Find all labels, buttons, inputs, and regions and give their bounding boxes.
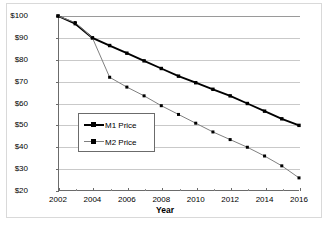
chart-legend: M1 Price M2 Price [78,113,155,152]
data-point-marker [280,164,283,167]
data-point-marker [229,138,232,141]
data-point-marker [125,51,128,54]
data-point-marker [297,124,300,127]
data-point-marker [246,102,249,105]
data-point-marker [125,86,128,89]
data-point-marker [211,88,214,91]
data-point-marker [280,117,283,120]
data-point-marker [211,130,214,133]
data-point-marker [57,15,60,18]
data-point-marker [108,76,111,79]
legend-item-m2-price: M2 Price [79,134,156,150]
series-line-m1-price [58,16,299,125]
legend-marker-m2-price [84,137,104,147]
data-point-marker [160,104,163,107]
data-point-marker [263,155,266,158]
data-point-marker [108,44,111,47]
data-point-marker [194,81,197,84]
data-point-marker [228,94,231,97]
data-point-marker [298,176,301,179]
data-point-marker [142,59,145,62]
data-point-marker [246,146,249,149]
line-chart: Price Year $20$30$40$50$60$70$80$90$100 … [0,0,330,229]
legend-label-m2-price: M2 Price [105,138,137,147]
legend-label-m1-price: M1 Price [105,121,137,130]
data-point-marker [91,36,94,39]
data-point-marker [263,109,266,112]
series-layer [0,0,330,229]
legend-marker-m1-price [84,120,104,130]
data-point-marker [177,74,180,77]
data-point-marker [194,122,197,125]
data-point-marker [160,67,163,70]
data-point-marker [143,94,146,97]
data-point-marker [177,113,180,116]
series-line-m2-price [58,16,299,178]
legend-item-m1-price: M1 Price [79,117,156,133]
data-point-marker [74,21,77,24]
